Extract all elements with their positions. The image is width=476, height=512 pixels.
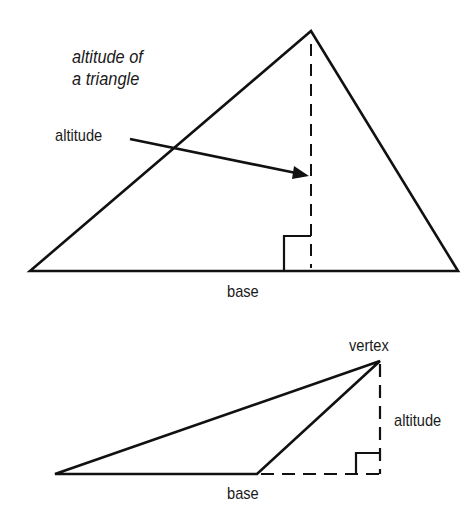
altitude-label-1: altitude <box>55 126 102 146</box>
title-line-2: a triangle <box>72 68 139 89</box>
triangle-2 <box>55 361 380 474</box>
right-angle-mark-1 <box>284 236 311 271</box>
vertex-label: vertex <box>349 336 389 356</box>
triangle-1-outline <box>30 31 458 271</box>
arrow-head-icon <box>292 166 309 179</box>
right-angle-mark-2 <box>356 453 380 474</box>
base-label-1: base <box>227 282 259 302</box>
triangle-1 <box>30 31 458 271</box>
base-label-2: base <box>227 484 259 504</box>
triangle-2-outline <box>55 361 380 474</box>
title-line-1: altitude of <box>72 46 143 67</box>
arrow-shaft <box>130 139 296 173</box>
arrow <box>130 139 309 179</box>
altitude-label-2: altitude <box>394 411 441 431</box>
